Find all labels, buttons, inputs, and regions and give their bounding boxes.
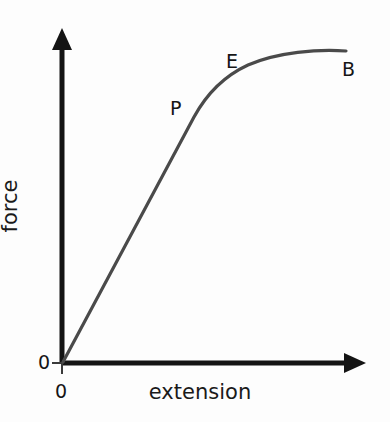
y-axis-title: force — [0, 158, 21, 254]
label-breaking-point: B — [342, 60, 355, 79]
label-limit-of-proportionality: P — [170, 99, 181, 118]
y-axis-arrowhead-icon — [52, 28, 72, 50]
force-extension-curve — [63, 50, 346, 362]
force-extension-figure: force extension P E B 0 0 — [0, 0, 390, 422]
origin-label-y-axis: 0 — [38, 353, 50, 372]
origin-label-x-axis: 0 — [55, 382, 67, 401]
label-elastic-limit: E — [226, 52, 238, 71]
x-axis-arrowhead-icon — [344, 353, 366, 373]
x-axis-title: extension — [115, 380, 285, 404]
graph-canvas — [0, 0, 390, 422]
